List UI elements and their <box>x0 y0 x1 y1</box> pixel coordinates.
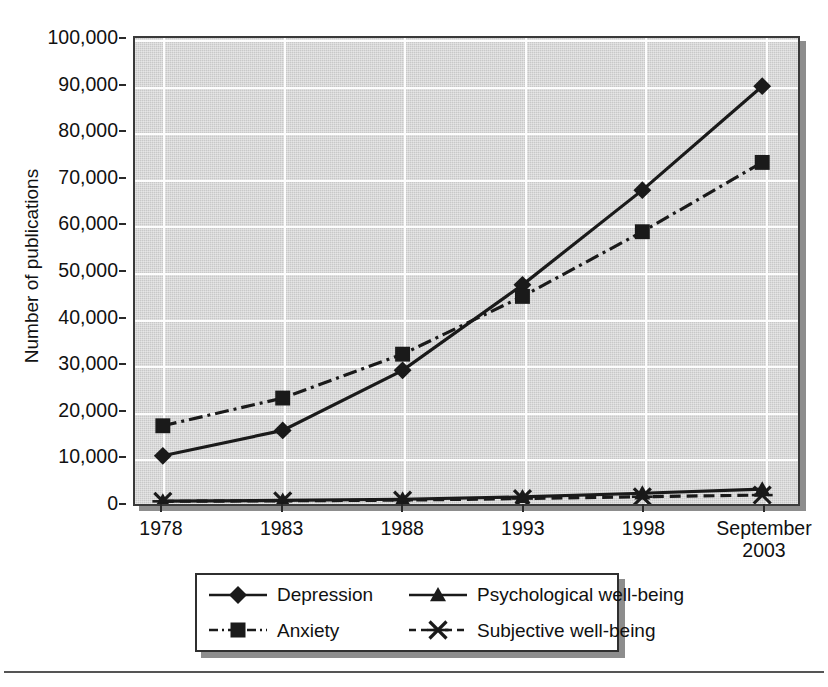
y-tick-label: 20,000 <box>58 401 118 421</box>
square-marker <box>275 391 290 406</box>
series-4 <box>152 487 772 506</box>
y-tick-mark <box>119 223 126 225</box>
x-tick-label: 1993 <box>501 518 544 540</box>
xcross-dashed-key <box>407 619 469 641</box>
square-marker <box>635 224 650 239</box>
square-marker <box>395 347 410 362</box>
chart-legend: DepressionPsychological well-beingAnxiet… <box>195 573 619 652</box>
x-tick-mark <box>281 504 283 512</box>
legend-item: Anxiety <box>207 619 407 641</box>
y-tick-label: 60,000 <box>58 215 118 235</box>
x-axis-baseline <box>135 504 798 506</box>
square-marker <box>231 623 246 638</box>
y-tick-mark <box>119 177 126 179</box>
x-tick-label: 1978 <box>139 518 182 540</box>
y-tick-mark <box>119 503 126 505</box>
legend-label: Anxiety <box>277 621 339 640</box>
y-tick-mark <box>119 317 126 319</box>
series-2 <box>155 155 769 433</box>
y-tick-mark <box>119 363 126 365</box>
y-tick-label: 80,000 <box>58 121 118 141</box>
square-marker <box>755 155 770 170</box>
y-tick-mark <box>119 270 126 272</box>
x-tick-label: September 2003 <box>716 518 811 562</box>
y-tick-label: 40,000 <box>58 308 118 328</box>
square-dashdot-key <box>207 619 269 641</box>
x-tick-mark <box>763 504 765 512</box>
x-tick-mark <box>642 504 644 512</box>
plot-area <box>133 36 800 506</box>
y-tick-mark <box>119 37 126 39</box>
triangle-solid-key <box>407 584 469 606</box>
diamond-marker <box>229 586 247 604</box>
y-tick-label: 10,000 <box>58 448 118 468</box>
x-cross-marker <box>428 622 449 639</box>
x-tick-mark <box>401 504 403 512</box>
square-marker <box>515 289 530 304</box>
y-tick-label: 50,000 <box>58 261 118 281</box>
legend-label: Subjective well-being <box>477 621 656 640</box>
legend-item: Depression <box>207 584 407 606</box>
series-layer <box>135 38 798 504</box>
diamond-solid-key <box>207 584 269 606</box>
x-tick-label: 1998 <box>622 518 665 540</box>
x-axis-tick-labels: 19781983198819931998September 2003 <box>0 512 828 582</box>
legend-label: Depression <box>277 585 373 604</box>
y-tick-label: 0 <box>107 494 118 514</box>
square-marker <box>155 418 170 433</box>
y-tick-mark <box>119 456 126 458</box>
legend-item: Subjective well-being <box>407 619 631 641</box>
series-3 <box>155 481 770 506</box>
diamond-marker <box>154 447 172 465</box>
y-tick-mark <box>119 84 126 86</box>
x-tick-label: 1988 <box>380 518 423 540</box>
y-tick-label: 70,000 <box>58 168 118 188</box>
x-tick-label: 1983 <box>260 518 303 540</box>
figure: Number of publications 010,00020,00030,0… <box>0 0 828 687</box>
y-tick-label: 100,000 <box>48 28 119 48</box>
x-tick-mark <box>160 504 162 512</box>
legend-item: Psychological well-being <box>407 584 631 606</box>
y-tick-label: 30,000 <box>58 354 118 374</box>
legend-label: Psychological well-being <box>477 585 684 604</box>
series-line <box>163 86 762 456</box>
y-tick-mark <box>119 410 126 412</box>
y-tick-label: 90,000 <box>58 75 118 95</box>
page-divider-rule <box>4 671 824 673</box>
y-tick-mark <box>119 130 126 132</box>
x-tick-mark <box>522 504 524 512</box>
diamond-marker <box>274 421 292 439</box>
series-line <box>163 162 762 425</box>
